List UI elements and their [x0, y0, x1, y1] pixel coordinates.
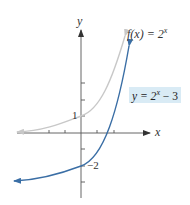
tick-label-neg2: −2 — [87, 159, 99, 171]
g-label: y = 2x − 3 — [129, 87, 181, 103]
y-axis-label: y — [77, 14, 82, 29]
tick-label-1: 1 — [72, 109, 78, 121]
curve-f — [17, 36, 125, 132]
axes — [17, 30, 150, 198]
x-axis-label: x — [155, 125, 160, 140]
f-label: f(x) = 2x — [127, 26, 167, 42]
